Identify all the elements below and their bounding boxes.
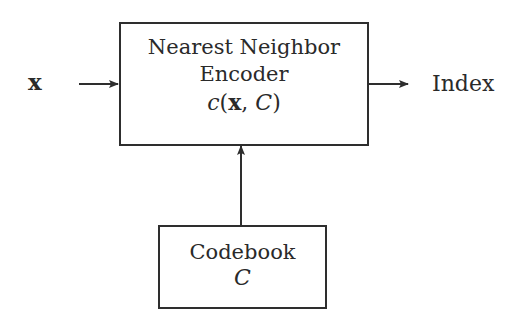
func-arg-codebook: C [255, 90, 272, 115]
input-label: x [28, 68, 42, 95]
encoder-title-line2: Encoder [119, 61, 369, 88]
codebook-symbol: C [158, 264, 327, 291]
codebook-title: Codebook [158, 239, 327, 266]
func-sep: , [241, 90, 255, 115]
encoder-function: c(x, C) [119, 89, 369, 116]
func-close: ) [272, 90, 281, 115]
output-label: Index [432, 70, 494, 97]
encoder-title-line1: Nearest Neighbor [119, 34, 369, 61]
func-open: ( [220, 90, 229, 115]
func-arg-x: x [228, 89, 241, 115]
func-name: c [207, 90, 219, 115]
